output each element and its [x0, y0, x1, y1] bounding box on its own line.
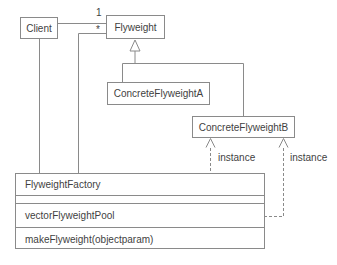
class-box-concrete-flyweight-a: ConcreteFlyweightA — [107, 82, 210, 105]
uml-flyweight-diagram: Client Flyweight ConcreteFlyweightA Conc… — [0, 0, 337, 265]
class-label-concrete-flyweight-b: ConcreteFlyweightB — [199, 122, 288, 133]
class-box-flyweight: Flyweight — [106, 15, 165, 39]
class-label-concrete-flyweight-a: ConcreteFlyweightA — [114, 88, 203, 99]
factory-operation-compartment: makeFlyweight(objectparam) — [16, 227, 264, 250]
dependency-instance-right — [265, 139, 288, 217]
factory-name-compartment: FlyweightFactory — [16, 174, 264, 195]
factory-attribute-label: vectorFlyweightPool — [25, 210, 114, 221]
class-box-flyweight-factory: FlyweightFactory vectorFlyweightPool mak… — [15, 173, 265, 249]
multiplicity-many-label: * — [96, 25, 100, 35]
factory-operation-label: makeFlyweight(objectparam) — [25, 234, 153, 245]
open-arrowhead-icon — [206, 139, 215, 148]
association-factory-flyweight — [79, 34, 107, 174]
factory-attribute-compartment: vectorFlyweightPool — [16, 203, 264, 227]
inheritance-triangle-icon — [130, 40, 140, 51]
factory-empty-compartment — [16, 195, 264, 203]
class-label-flyweight-factory: FlyweightFactory — [25, 179, 101, 190]
dependency-instance-left — [206, 139, 215, 174]
class-label-client: Client — [26, 23, 52, 34]
instance-label-left: instance — [218, 153, 255, 163]
class-box-client: Client — [20, 17, 58, 39]
open-arrowhead-icon — [279, 139, 288, 148]
instance-label-right: instance — [290, 153, 327, 163]
class-label-flyweight: Flyweight — [114, 22, 156, 33]
multiplicity-one-label: 1 — [96, 8, 102, 18]
class-box-concrete-flyweight-b: ConcreteFlyweightB — [192, 116, 295, 138]
